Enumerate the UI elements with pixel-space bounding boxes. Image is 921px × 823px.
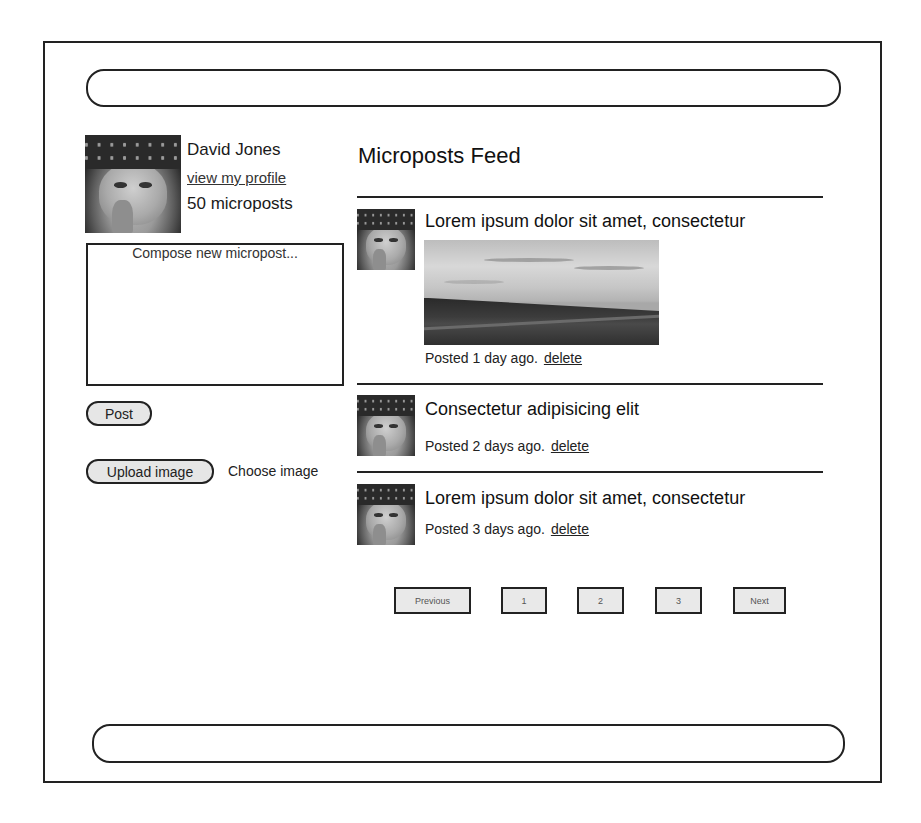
post-avatar	[357, 209, 415, 270]
header-navbar	[86, 69, 841, 107]
delete-link[interactable]: delete	[551, 438, 589, 454]
divider	[357, 383, 823, 385]
post-timestamp: Posted 3 days ago.	[425, 521, 545, 537]
footer-bar	[92, 724, 845, 763]
post-text: Lorem ipsum dolor sit amet, consectetur	[425, 488, 745, 509]
post-text: Consectetur adipisicing elit	[425, 399, 639, 420]
pagination-page-3[interactable]: 3	[655, 587, 702, 614]
post-avatar	[357, 484, 415, 545]
upload-image-button[interactable]: Upload image	[86, 459, 214, 484]
compose-micropost-input[interactable]	[86, 243, 344, 386]
feed-title: Microposts Feed	[358, 143, 521, 169]
choose-image-label: Choose image	[228, 463, 318, 479]
post-timestamp: Posted 1 day ago.	[425, 350, 538, 366]
post-text: Lorem ipsum dolor sit amet, consectetur	[425, 211, 745, 232]
profile-name: David Jones	[187, 140, 281, 160]
divider	[357, 196, 823, 198]
micropost-count: 50 microposts	[187, 194, 293, 214]
profile-avatar	[85, 135, 181, 233]
post-meta: Posted 1 day ago.delete	[425, 350, 582, 366]
pagination-next-button[interactable]: Next	[733, 587, 786, 614]
post-image	[424, 240, 659, 345]
view-profile-link[interactable]: view my profile	[187, 169, 286, 186]
post-button[interactable]: Post	[86, 401, 152, 426]
post-meta: Posted 3 days ago.delete	[425, 521, 589, 537]
divider	[357, 471, 823, 473]
delete-link[interactable]: delete	[551, 521, 589, 537]
post-meta: Posted 2 days ago.delete	[425, 438, 589, 454]
pagination-previous-button[interactable]: Previous	[394, 587, 471, 614]
pagination-page-1[interactable]: 1	[501, 587, 547, 614]
avatar-hat	[85, 135, 181, 169]
delete-link[interactable]: delete	[544, 350, 582, 366]
avatar-face	[99, 164, 166, 225]
post-timestamp: Posted 2 days ago.	[425, 438, 545, 454]
pagination-page-2[interactable]: 2	[577, 587, 624, 614]
post-avatar	[357, 395, 415, 456]
